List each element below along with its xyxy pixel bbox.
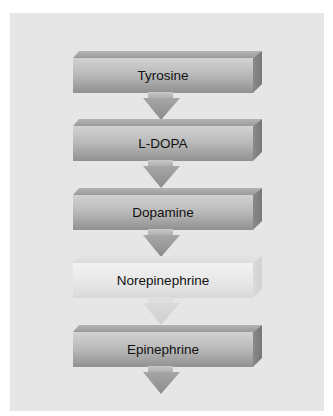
- down-arrow-icon: [143, 297, 180, 325]
- box-side-bevel: [253, 188, 262, 230]
- down-arrow-icon: [143, 92, 180, 120]
- box-top-bevel: [73, 188, 262, 195]
- down-arrow-icon: [143, 229, 180, 257]
- step-box-norepinephrine: Norepinephrine: [73, 256, 262, 298]
- step-box-dopamine: Dopamine: [73, 188, 262, 230]
- step-box-l-dopa: L-DOPA: [73, 119, 262, 161]
- box-side-bevel: [253, 119, 262, 161]
- box-side-bevel: [253, 51, 262, 93]
- box-top-bevel: [73, 325, 262, 332]
- step-label: Dopamine: [73, 195, 253, 230]
- box-side-bevel: [253, 256, 262, 298]
- down-arrow-icon: [143, 160, 180, 188]
- step-label: Epinephrine: [73, 332, 253, 367]
- box-top-bevel: [73, 256, 262, 263]
- down-arrow-icon: [143, 366, 180, 394]
- step-label: Norepinephrine: [73, 263, 253, 298]
- step-label: L-DOPA: [73, 126, 253, 161]
- box-side-bevel: [253, 325, 262, 367]
- box-top-bevel: [73, 119, 262, 126]
- step-box-epinephrine: Epinephrine: [73, 325, 262, 367]
- step-box-tyrosine: Tyrosine: [73, 51, 262, 93]
- box-top-bevel: [73, 51, 262, 58]
- step-label: Tyrosine: [73, 58, 253, 93]
